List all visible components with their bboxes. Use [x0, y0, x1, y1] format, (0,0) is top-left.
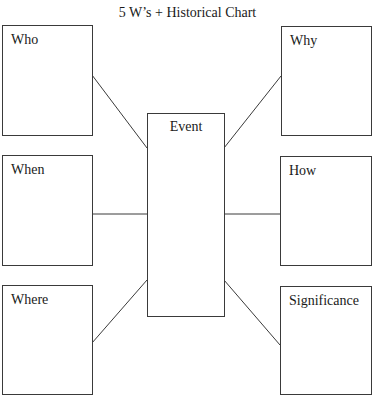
why-box: Why [281, 26, 372, 136]
where-box: Where [2, 285, 93, 395]
connector-where-event [92, 280, 147, 343]
how-box: How [280, 156, 372, 266]
event-box: Event [147, 113, 225, 317]
connector-why-event [224, 76, 281, 148]
how-label: How [289, 163, 316, 179]
connector-who-event [92, 75, 147, 148]
significance-box: Significance [280, 286, 372, 395]
when-label: When [11, 162, 44, 178]
who-box: Who [2, 25, 93, 136]
connector-significance-event [224, 280, 280, 345]
who-label: Who [11, 32, 38, 48]
event-label: Event [148, 119, 224, 135]
where-label: Where [11, 292, 48, 308]
when-box: When [2, 155, 93, 266]
significance-label: Significance [289, 293, 359, 309]
why-label: Why [290, 33, 317, 49]
